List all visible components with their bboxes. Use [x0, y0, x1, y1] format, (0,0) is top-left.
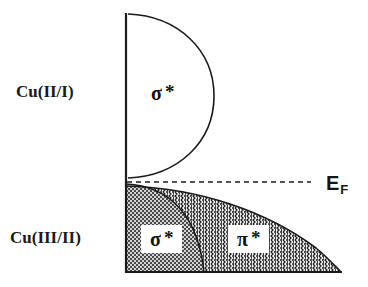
figure-canvas: Cu(II/I) Cu(III/II) σ* σ* π* EF: [0, 0, 368, 287]
upper-band-row-label: Cu(II/I): [16, 82, 74, 102]
sigma-symbol: σ: [150, 228, 161, 250]
fermi-level-label: EF: [326, 173, 348, 196]
asterisk-symbol: *: [165, 81, 175, 102]
upper-band-sigma-star-label: σ*: [151, 82, 174, 103]
lower-band-pi-star-label: π*: [228, 225, 269, 253]
pi-symbol: π: [237, 228, 248, 250]
sigma-symbol: σ: [151, 82, 162, 104]
lower-band-row-label: Cu(III/II): [10, 228, 81, 248]
lower-band-sigma-star-label: σ*: [141, 225, 182, 253]
fermi-subscript: F: [340, 182, 348, 197]
asterisk-symbol: *: [164, 227, 174, 248]
fermi-energy-symbol: E: [326, 172, 339, 194]
asterisk-symbol: *: [251, 227, 261, 248]
